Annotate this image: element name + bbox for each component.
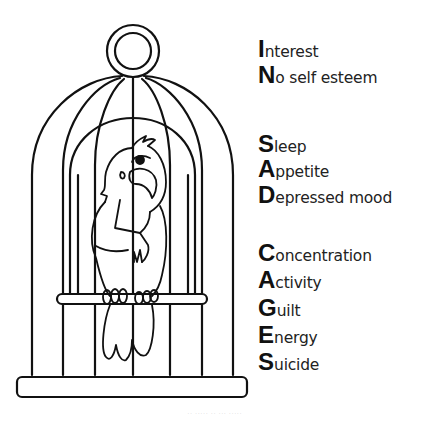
mnemonic-letter: D — [258, 183, 275, 207]
mnemonic-item-interest: I nterest — [258, 37, 318, 61]
mnemonic-word-rest: uilt — [277, 303, 301, 319]
mnemonic-item-energy: E nergy — [258, 323, 318, 347]
mnemonic-word-rest: ctivity — [275, 275, 321, 291]
mnemonic-word-rest: ppetite — [275, 164, 329, 180]
mnemonic-word-rest: nergy — [274, 330, 317, 346]
cage-base — [17, 377, 247, 397]
mnemonic-word-rest: oncentration — [275, 248, 371, 264]
mnemonic-letter: N — [258, 63, 275, 87]
mnemonic-letter: C — [258, 241, 275, 265]
mnemonic-item-activity: A ctivity — [258, 268, 322, 292]
parrot-in-cage-illustration — [0, 0, 250, 400]
mnemonic-item-concentration: C oncentration — [258, 241, 372, 265]
mnemonic-item-guilt: G uilt — [258, 296, 300, 320]
mnemonic-word-rest: nterest — [265, 44, 319, 60]
mnemonic-letter: G — [258, 296, 277, 320]
mnemonic-letter: I — [258, 37, 265, 61]
cage-ring-icon — [107, 25, 159, 77]
mnemonic-word-rest: leep — [274, 139, 306, 155]
mnemonic-word-rest: uicide — [274, 357, 319, 373]
perch — [57, 294, 207, 304]
mnemonic-letter: E — [258, 323, 274, 347]
mnemonic-letter: A — [258, 268, 275, 292]
faint-caption: ·· ····· ·· ··· ····· — [160, 410, 270, 415]
mnemonic-item-depressed-mood: D epressed mood — [258, 183, 392, 207]
mnemonic-letter: S — [258, 350, 274, 374]
mnemonic-word-rest: o self esteem — [275, 70, 377, 86]
cage-bars — [32, 76, 233, 375]
mnemonic-item-suicide: S uicide — [258, 350, 319, 374]
mnemonic-word-rest: epressed mood — [275, 190, 392, 206]
mnemonic-item-sleep: S leep — [258, 132, 306, 156]
parrot-icon — [92, 136, 166, 360]
mnemonic-letter: A — [258, 157, 275, 181]
mnemonic-item-no-self-esteem: N o self esteem — [258, 63, 377, 87]
mnemonic-letter: S — [258, 132, 274, 156]
mnemonic-item-appetite: A ppetite — [258, 157, 329, 181]
